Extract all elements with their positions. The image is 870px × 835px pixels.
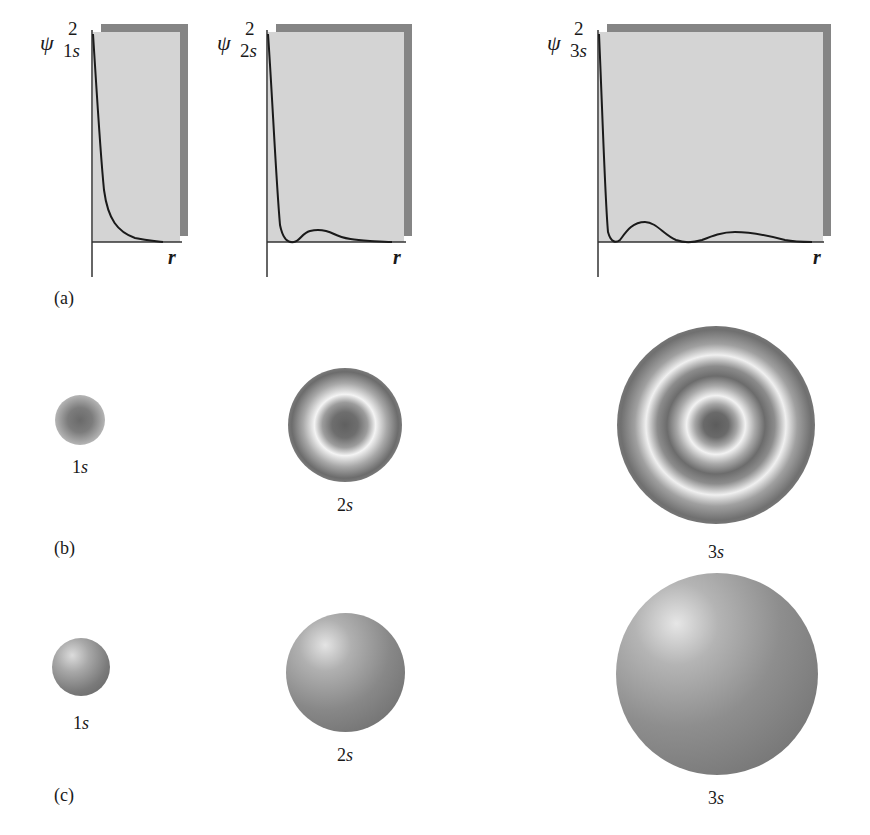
- panel-label-c: (c): [54, 785, 74, 806]
- y-axis-sup-3s: 2: [574, 18, 584, 40]
- orbital-label-2s-sphere: 2s: [305, 745, 385, 766]
- orbital-label-2s: 2s: [305, 495, 385, 516]
- density-cloud-1s: [55, 395, 105, 445]
- orbital-label-3s-sphere: 3s: [676, 788, 756, 809]
- orbital-label-1s: 1s: [40, 457, 120, 478]
- plot-area: [599, 32, 823, 242]
- panel-label-b: (b): [54, 538, 75, 559]
- orbital-label-1s-sphere: 1s: [41, 713, 121, 734]
- orbital-label-3s: 3s: [676, 542, 756, 563]
- y-axis-label-3s: ψ: [547, 30, 561, 56]
- sphere-1s: [52, 638, 110, 696]
- x-axis-label-3s: r: [813, 246, 821, 269]
- density-cloud-3s: [617, 326, 815, 524]
- sphere-3s: [616, 573, 818, 775]
- panel-label-a: (a): [54, 288, 74, 309]
- density-cloud-2s: [288, 368, 402, 482]
- sphere-2s: [286, 613, 405, 732]
- y-axis-sub-3s: 3s: [570, 40, 587, 62]
